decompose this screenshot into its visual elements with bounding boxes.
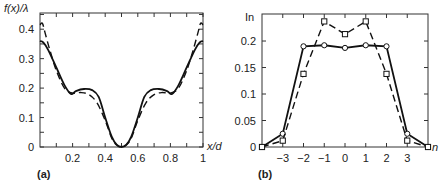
y-tick-label: 0	[28, 141, 34, 153]
x-tick-label: 0.4	[98, 152, 113, 164]
series-line-solid	[40, 41, 203, 147]
chart-panel-b: In n 00.050.10.150.2 −3−2−10123 (b)	[235, 11, 439, 180]
series-line-squares-dashed	[262, 21, 428, 147]
x-tick-label: 0	[342, 152, 348, 164]
figure: f(x)/λ x/d 00.10.20.30.4 0.20.40.60.81 (…	[0, 0, 447, 186]
marker-square	[322, 19, 327, 24]
x-tick-labels-b: −3−2−10123	[276, 152, 410, 164]
series-group-b	[259, 19, 430, 150]
panel-label-a: (a)	[37, 168, 51, 180]
x-axis-title-a: x/d	[206, 140, 223, 152]
y-tick-label: 0	[250, 141, 256, 153]
x-tick-label: 0.6	[130, 152, 145, 164]
series-line-circles-solid	[262, 45, 428, 147]
marker-square	[405, 138, 410, 143]
y-tick-label: 0.05	[235, 115, 256, 127]
y-tick-labels-b: 00.050.10.150.2	[235, 35, 256, 153]
marker-square	[301, 71, 306, 76]
x-tick-label: −2	[297, 152, 310, 164]
x-tick-label: 2	[383, 152, 389, 164]
plot-frame-a	[40, 13, 203, 147]
marker-square	[259, 144, 264, 149]
x-tick-label: 1	[363, 152, 369, 164]
panel-label-b: (b)	[258, 168, 272, 180]
y-axis-title-a: f(x)/λ	[4, 2, 28, 14]
marker-square	[280, 138, 285, 143]
series-group-a	[40, 23, 203, 147]
x-tick-label: −1	[318, 152, 331, 164]
x-tick-label: 0.8	[163, 152, 178, 164]
y-tick-label: 0.2	[241, 35, 256, 47]
marker-circle	[322, 43, 327, 48]
y-tick-label: 0.4	[19, 23, 34, 35]
marker-circle	[384, 44, 389, 49]
marker-circle	[405, 131, 410, 136]
x-tick-label: 0.2	[65, 152, 80, 164]
marker-square	[425, 144, 430, 149]
y-tick-labels-a: 00.10.20.30.4	[19, 23, 34, 153]
chart-panel-a: f(x)/λ x/d 00.10.20.30.4 0.20.40.60.81 (…	[4, 2, 223, 180]
marker-circle	[342, 45, 347, 50]
y-axis-title-b: In	[245, 11, 254, 23]
marker-circle	[363, 43, 368, 48]
y-tick-label: 0.2	[19, 82, 34, 94]
x-axis-title-b: n	[432, 141, 438, 153]
marker-circle	[301, 44, 306, 49]
x-tick-label: −3	[276, 152, 289, 164]
x-tick-label: 3	[404, 152, 410, 164]
x-tick-label: 1	[200, 152, 206, 164]
y-tick-label: 0.15	[235, 62, 256, 74]
marker-square	[363, 19, 368, 24]
tick-marks-a	[40, 13, 203, 147]
marker-square	[384, 71, 389, 76]
y-tick-label: 0.3	[19, 53, 34, 65]
y-tick-label: 0.1	[19, 112, 34, 124]
x-tick-labels-a: 0.20.40.60.81	[65, 152, 206, 164]
marker-square	[342, 32, 347, 37]
y-tick-label: 0.1	[241, 88, 256, 100]
